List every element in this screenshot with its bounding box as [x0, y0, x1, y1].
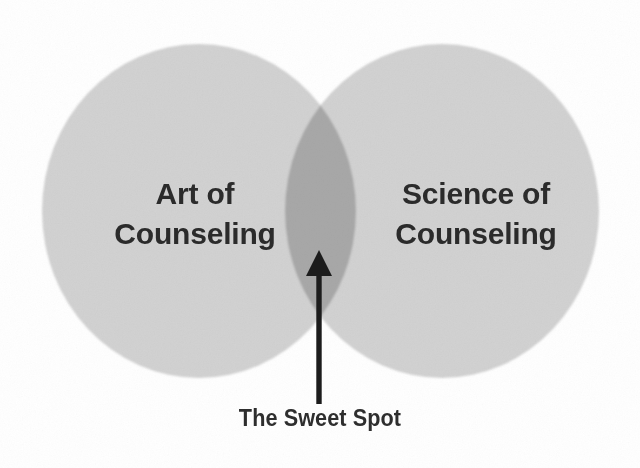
set-label-left-line1: Art of [60, 174, 330, 214]
set-label-right: Science of Counseling [340, 174, 612, 253]
set-label-left: Art of Counseling [60, 174, 330, 253]
set-label-left-line2: Counseling [60, 214, 330, 254]
set-label-right-line1: Science of [340, 174, 612, 214]
set-label-right-line2: Counseling [340, 214, 612, 254]
intersection-caption: The Sweet Spot [19, 406, 621, 431]
venn-diagram: Art of Counseling Science of Counseling … [0, 0, 640, 468]
